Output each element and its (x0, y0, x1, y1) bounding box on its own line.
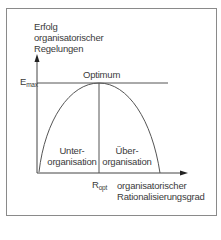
x-label-line-2: Rationalisierungsgrad (117, 191, 205, 202)
emax-label: Emax (20, 76, 38, 90)
optimum-label: Optimum (83, 69, 120, 80)
ropt-sub: opt (99, 184, 107, 191)
y-label-line-2: organisatorischer (34, 32, 103, 43)
ropt-main: R (92, 179, 99, 190)
unterorganisation-label: Unter- organisation (46, 145, 98, 167)
right-region-line-1: Über- (101, 145, 153, 156)
x-label-line-1: organisatorischer (117, 180, 205, 191)
y-label-line-3: Regelungen (34, 43, 103, 54)
y-axis-label: Erfolg organisatorischer Regelungen (34, 21, 103, 54)
right-region-line-2: organisation (101, 156, 153, 167)
ropt-label: Ropt (92, 179, 107, 193)
left-region-line-2: organisation (46, 156, 98, 167)
left-region-line-1: Unter- (46, 145, 98, 156)
x-axis-label: organisatorischer Rationalisierungsgrad (117, 180, 205, 202)
y-axis-arrow-icon (35, 54, 40, 62)
y-label-line-1: Erfolg (34, 21, 103, 32)
x-axis-arrow-icon (180, 171, 188, 176)
ueberorganisation-label: Über- organisation (101, 145, 153, 167)
emax-sub: max (26, 81, 38, 88)
